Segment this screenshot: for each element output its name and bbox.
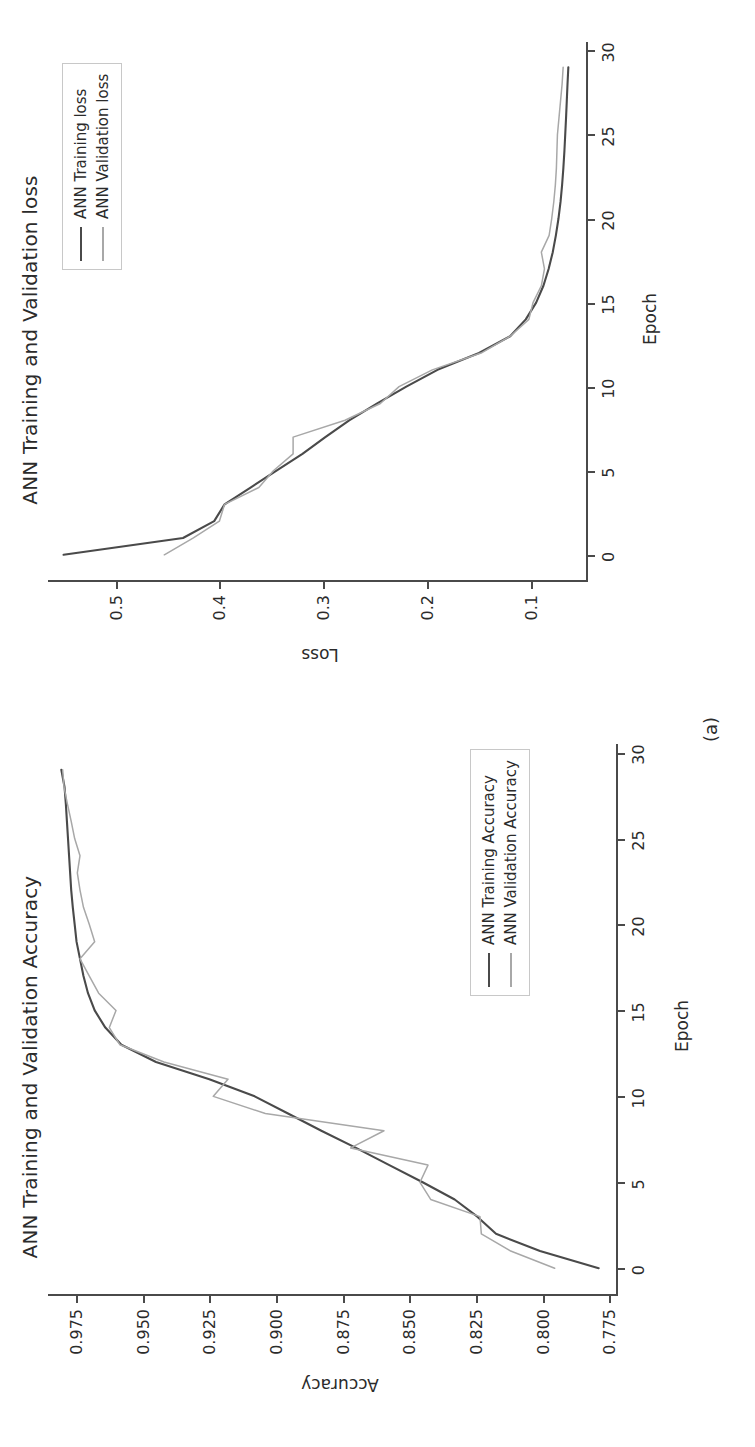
y-tick-label: 0.950: [133, 1309, 152, 1355]
y-tick-mark: [543, 1296, 545, 1303]
legend-swatch-validation: [102, 227, 104, 261]
y-tick-label: 0.900: [267, 1309, 286, 1355]
legend-swatch-train: [488, 953, 490, 987]
y-tick-mark: [219, 582, 221, 589]
y-tick-label: 0.825: [467, 1309, 486, 1355]
y-tick-label: 0.875: [333, 1309, 352, 1355]
x-tick-mark: [618, 1182, 625, 1184]
accuracy-legend: ANN Training Accuracy ANN Validation Acc…: [470, 749, 530, 996]
x-tick-label: 15: [599, 294, 618, 314]
y-tick-mark: [343, 1296, 345, 1303]
y-tick-label: 0.5: [106, 595, 125, 620]
y-tick-mark: [531, 582, 533, 589]
legend-item-validation: ANN Validation Accuracy: [500, 760, 522, 987]
legend-swatch-train: [80, 227, 82, 261]
accuracy-chart-title: ANN Training and Validation Accuracy: [18, 752, 42, 1382]
x-tick-mark: [588, 303, 595, 305]
x-tick-label: 25: [599, 126, 618, 146]
loss-plot-area: [48, 42, 588, 582]
y-tick-label: 0.975: [67, 1309, 86, 1355]
accuracy-chart: ANN Training and Validation Accuracy ANN…: [0, 712, 735, 1442]
y-tick-label: 0.775: [600, 1309, 619, 1355]
x-tick-mark: [588, 471, 595, 473]
legend-label-train: ANN Training Accuracy: [480, 775, 498, 945]
x-tick-mark: [618, 924, 625, 926]
x-tick-label: 20: [629, 916, 648, 936]
x-tick-label: 10: [599, 378, 618, 398]
x-tick-mark: [618, 1096, 625, 1098]
loss-lines-svg: [48, 42, 586, 580]
x-tick-mark: [618, 753, 625, 755]
x-tick-label: 30: [629, 744, 648, 764]
figure-page: ANN Training and Validation loss ANN Tra…: [0, 0, 755, 1447]
y-tick-label: 0.800: [533, 1309, 552, 1355]
y-tick-mark: [276, 1296, 278, 1303]
y-tick-mark: [427, 582, 429, 589]
x-tick-label: 10: [629, 1088, 648, 1108]
x-tick-mark: [588, 555, 595, 557]
y-tick-mark: [209, 1296, 211, 1303]
accuracy-plot-area: [48, 744, 618, 1296]
y-tick-mark: [323, 582, 325, 589]
y-tick-label: 0.850: [400, 1309, 419, 1355]
y-tick-label: 0.2: [418, 595, 437, 620]
y-tick-label: 0.4: [210, 595, 229, 620]
y-tick-mark: [476, 1296, 478, 1303]
y-tick-label: 0.1: [521, 595, 540, 620]
loss-legend: ANN Training loss ANN Validation loss: [62, 63, 122, 270]
x-tick-mark: [588, 387, 595, 389]
legend-label-train: ANN Training loss: [72, 89, 90, 219]
loss-chart-region: ANN Training and Validation loss ANN Tra…: [0, 0, 710, 700]
y-tick-label: 0.3: [314, 595, 333, 620]
x-tick-label: 15: [629, 1002, 648, 1022]
x-tick-label: 5: [629, 1179, 648, 1189]
x-tick-mark: [618, 1268, 625, 1270]
x-tick-label: 30: [599, 42, 618, 62]
y-tick-mark: [143, 1296, 145, 1303]
legend-label-validation: ANN Validation loss: [94, 74, 112, 219]
loss-chart-title: ANN Training and Validation loss: [18, 40, 42, 640]
subfigure-caption: (a): [700, 717, 721, 742]
x-tick-label: 5: [599, 468, 618, 478]
loss-chart: ANN Training and Validation loss ANN Tra…: [0, 0, 710, 700]
y-tick-mark: [116, 582, 118, 589]
x-tick-mark: [618, 839, 625, 841]
x-tick-label: 0: [599, 552, 618, 562]
x-tick-mark: [588, 50, 595, 52]
legend-item-train: ANN Training loss: [70, 74, 92, 261]
x-tick-label: 20: [599, 210, 618, 230]
x-tick-label: 25: [629, 830, 648, 850]
accuracy-y-axis-label: Accuracy: [301, 1375, 379, 1395]
y-tick-mark: [609, 1296, 611, 1303]
accuracy-chart-region: ANN Training and Validation Accuracy ANN…: [0, 712, 735, 1447]
x-tick-mark: [588, 134, 595, 136]
loss-x-axis-label: Epoch: [640, 293, 660, 345]
legend-swatch-validation: [510, 953, 512, 987]
legend-item-train: ANN Training Accuracy: [478, 760, 500, 987]
x-tick-mark: [588, 219, 595, 221]
loss-y-axis-label: Loss: [301, 645, 338, 665]
y-tick-mark: [409, 1296, 411, 1303]
accuracy-lines-svg: [48, 744, 616, 1294]
y-tick-label: 0.925: [200, 1309, 219, 1355]
x-tick-mark: [618, 1010, 625, 1012]
accuracy-x-axis-label: Epoch: [672, 1000, 692, 1052]
legend-label-validation: ANN Validation Accuracy: [502, 760, 520, 945]
y-tick-mark: [76, 1296, 78, 1303]
legend-item-validation: ANN Validation loss: [92, 74, 114, 261]
x-tick-label: 0: [629, 1265, 648, 1275]
